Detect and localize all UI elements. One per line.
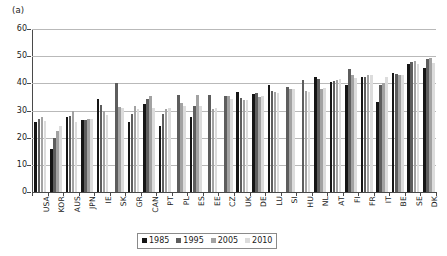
chart-legend: 1985199520052010 — [137, 233, 277, 249]
x-tick-label-aus: AUS — [74, 196, 82, 212]
bar — [354, 78, 357, 192]
bar — [323, 88, 326, 192]
bar — [183, 106, 186, 192]
bar-group — [358, 29, 374, 192]
bar — [401, 75, 404, 192]
bar — [277, 93, 280, 192]
plot-area — [32, 29, 436, 192]
bar-group — [265, 29, 281, 192]
bars-layer — [32, 29, 436, 192]
y-tick-mark-50 — [27, 56, 31, 57]
legend-label: 2010 — [252, 237, 272, 245]
bar — [417, 64, 420, 192]
legend-swatch-icon — [211, 238, 216, 243]
x-tick-label-usa: USA — [43, 196, 51, 212]
bar — [168, 108, 171, 192]
bar — [75, 122, 78, 192]
x-tick-label-it: IT — [385, 196, 393, 203]
bar-group — [405, 29, 421, 192]
bar-group — [218, 29, 234, 192]
y-tick-mark-30 — [27, 111, 31, 112]
x-tick-label-fi: FI — [354, 196, 362, 203]
bar — [199, 106, 202, 192]
bar — [215, 108, 218, 192]
x-axis-tick-labels: USAKORAUSJPNIESKGRCANPTPLESEECZUKDELUSIH… — [32, 196, 436, 230]
bar-group — [141, 29, 157, 192]
legend-item-2005[interactable]: 2005 — [211, 237, 238, 245]
bar-group — [327, 29, 343, 192]
bar — [230, 99, 233, 192]
legend-item-1985[interactable]: 1985 — [142, 237, 169, 245]
x-tick-label-uk: UK — [245, 196, 253, 207]
bar-group — [187, 29, 203, 192]
bar — [121, 108, 124, 192]
bar — [292, 89, 295, 192]
x-tick-label-nl: NL — [322, 196, 330, 206]
x-tick-label-es: ES — [198, 196, 206, 206]
x-tick-label-pt: PT — [167, 196, 175, 206]
bar-group — [281, 29, 297, 192]
x-tick-label-at: AT — [338, 196, 346, 206]
bar-group — [343, 29, 359, 192]
x-tick-label-de: DE — [260, 196, 268, 207]
bar — [385, 77, 388, 192]
legend-item-2010[interactable]: 2010 — [245, 237, 272, 245]
bar-group — [420, 29, 436, 192]
x-tick-label-hu: HU — [307, 196, 315, 208]
legend-swatch-icon — [142, 238, 147, 243]
bar-group — [296, 29, 312, 192]
x-tick-label-se: SE — [416, 196, 424, 206]
bar — [339, 79, 342, 192]
bar — [90, 119, 93, 192]
bar — [246, 100, 249, 192]
bar-group — [125, 29, 141, 192]
bar-group — [374, 29, 390, 192]
legend-label: 1985 — [149, 237, 169, 245]
bar — [59, 126, 62, 192]
legend-swatch-icon — [245, 238, 250, 243]
bar — [137, 109, 140, 192]
bar — [152, 108, 155, 192]
panel-label: (a) — [12, 5, 24, 15]
bar-group — [110, 29, 126, 192]
bar-group — [172, 29, 188, 192]
legend-label: 1995 — [183, 237, 203, 245]
y-tick-mark-40 — [27, 83, 31, 84]
legend-item-1995[interactable]: 1995 — [176, 237, 203, 245]
bar-group — [48, 29, 64, 192]
legend-label: 2005 — [218, 237, 238, 245]
bar-group — [250, 29, 266, 192]
bar — [44, 121, 47, 192]
x-tick-label-pl: PL — [183, 196, 191, 205]
bar — [261, 96, 264, 192]
bar — [308, 92, 311, 192]
x-tick-label-si: SI — [291, 196, 299, 203]
x-tick-label-fr: FR — [369, 196, 377, 206]
bar — [370, 75, 373, 192]
x-tick-label-dk: DK — [431, 196, 439, 207]
x-tick-label-jpn: JPN — [89, 196, 97, 209]
bar-group — [94, 29, 110, 192]
bar-group — [312, 29, 328, 192]
bar — [106, 115, 109, 192]
bar — [432, 63, 435, 192]
x-tick-label-lu: LU — [276, 196, 284, 206]
bar-group — [234, 29, 250, 192]
bar-group — [32, 29, 48, 192]
chart-figure: (a) 0102030405060 USAKORAUSJPNIESKGRCANP… — [0, 0, 447, 256]
y-tick-mark-0 — [27, 192, 31, 193]
x-tick-label-ee: EE — [214, 196, 222, 206]
x-tick-label-cz: CZ — [229, 196, 237, 207]
bar-group — [63, 29, 79, 192]
bar-group — [156, 29, 172, 192]
x-tick-label-can: CAN — [152, 196, 160, 213]
y-tick-mark-60 — [27, 29, 31, 30]
bar-group — [389, 29, 405, 192]
y-axis-tick-marks — [0, 29, 32, 192]
y-tick-mark-20 — [27, 138, 31, 139]
x-tick-label-ie: IE — [105, 196, 113, 203]
y-tick-mark-10 — [27, 165, 31, 166]
legend-swatch-icon — [176, 238, 181, 243]
x-tick-label-be: BE — [400, 196, 408, 206]
x-tick-label-gr: GR — [136, 196, 144, 208]
